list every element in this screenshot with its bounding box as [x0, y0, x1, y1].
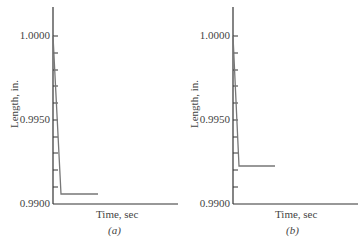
- chart-panel-a: 1.0000 0.9950 0.9900 Length, in. Time, s…: [0, 0, 181, 243]
- panel-caption: (b): [286, 224, 299, 236]
- y-axis-label: Length, in.: [8, 80, 20, 128]
- y-axis-label: Length, in.: [188, 80, 200, 128]
- panel-caption: (a): [108, 224, 121, 236]
- y-tick-label: 1.0000: [2, 29, 50, 41]
- chart-panel-b: 1.0000 0.9950 0.9900 Length, in. Time, s…: [180, 0, 361, 243]
- x-axis-label: Time, sec: [275, 208, 317, 220]
- y-tick-label: 0.9900: [182, 197, 230, 209]
- caption-paren: ): [117, 224, 121, 236]
- y-tick-label: 0.9900: [2, 197, 50, 209]
- x-axis-label: Time, sec: [96, 208, 138, 220]
- length-line: [233, 36, 275, 166]
- y-tick-label: 1.0000: [182, 29, 230, 41]
- caption-paren: ): [295, 224, 299, 236]
- length-line: [53, 36, 98, 194]
